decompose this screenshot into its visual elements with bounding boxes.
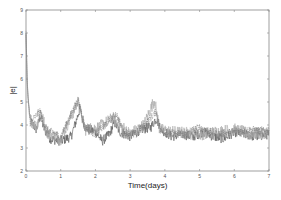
y-tick-label: 2	[20, 168, 23, 174]
series-dashed-line	[26, 35, 269, 140]
x-tick-label: 3	[129, 173, 132, 179]
line-chart: 0123456723456789 Time(days) |e|	[0, 0, 281, 200]
x-tick-label: 7	[268, 173, 271, 179]
ticks-layer: 0123456723456789	[20, 7, 270, 179]
series-dark-line	[26, 33, 269, 146]
y-tick-label: 8	[20, 30, 23, 36]
y-tick-label: 4	[20, 122, 23, 128]
x-tick-label: 0	[25, 173, 28, 179]
x-tick-label: 2	[94, 173, 97, 179]
plot-frame	[26, 10, 269, 171]
y-tick-label: 3	[20, 145, 23, 151]
x-tick-label: 5	[198, 173, 201, 179]
y-tick-label: 9	[20, 7, 23, 13]
y-axis-label: |e|	[8, 86, 17, 95]
y-tick-label: 7	[20, 53, 23, 59]
y-tick-label: 5	[20, 99, 23, 105]
x-tick-label: 6	[233, 173, 236, 179]
x-tick-label: 4	[163, 173, 166, 179]
series-layer	[26, 31, 269, 146]
x-tick-label: 1	[59, 173, 62, 179]
x-axis-label: Time(days)	[128, 181, 168, 190]
y-tick-label: 6	[20, 76, 23, 82]
